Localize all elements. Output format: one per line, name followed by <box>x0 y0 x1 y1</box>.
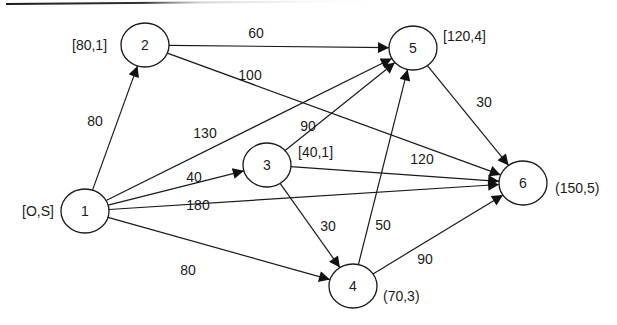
edge-2-to-6 <box>167 53 500 175</box>
node-label: 2 <box>141 37 149 53</box>
edge-weight-label: 120 <box>410 151 434 167</box>
node-annotation: (150,5) <box>555 180 599 196</box>
edge-weight-label: 90 <box>417 251 433 267</box>
edge-arrow <box>373 195 503 274</box>
edge-1-to-6 <box>109 185 499 210</box>
edge-weight-label: 30 <box>476 94 492 110</box>
edge-4-to-6 <box>373 195 503 274</box>
edge-weight-label: 60 <box>248 25 264 41</box>
edge-1-to-3 <box>108 171 244 205</box>
node-label: 4 <box>349 278 357 294</box>
edge-3-to-6 <box>291 167 499 182</box>
edge-arrow <box>109 185 499 210</box>
network-diagram: 123456 806010013090401201803050809030[O,… <box>0 0 617 325</box>
node-annotation: [O,S] <box>22 203 54 219</box>
node-4: 4 <box>329 264 377 308</box>
node-6: 6 <box>499 161 547 205</box>
edge-weight-label: 180 <box>186 197 210 213</box>
edge-weight-label: 90 <box>300 118 316 134</box>
edge-arrow <box>108 217 330 279</box>
edge-weight-label: 50 <box>375 217 391 233</box>
node-1: 1 <box>61 189 109 233</box>
node-annotation: (70,3) <box>383 288 420 304</box>
node-5: 5 <box>389 26 437 70</box>
node-label: 5 <box>409 40 417 56</box>
edge-1-to-4 <box>108 217 330 279</box>
edge-weight-label: 80 <box>87 113 103 129</box>
edge-arrow <box>285 63 395 151</box>
edge-arrow <box>358 69 407 264</box>
edge-arrow <box>167 53 500 175</box>
node-label: 3 <box>263 157 271 173</box>
node-label: 1 <box>81 203 89 219</box>
edge-weight-label: 100 <box>238 67 262 83</box>
edge-arrow <box>291 167 499 182</box>
top-rule <box>6 1 400 4</box>
edge-weight-label: 130 <box>193 125 217 141</box>
node-3: 3 <box>243 143 291 187</box>
edge-5-to-6 <box>427 66 508 166</box>
node-annotation: [80,1] <box>72 37 107 53</box>
edge-3-to-5 <box>285 63 395 151</box>
edges-layer <box>93 45 509 279</box>
edge-weight-label: 40 <box>186 169 202 185</box>
node-label: 6 <box>519 175 527 191</box>
edge-weight-label: 30 <box>320 218 336 234</box>
edge-weight-label: 80 <box>180 262 196 278</box>
edge-2-to-5 <box>169 45 389 47</box>
node-2: 2 <box>121 23 169 67</box>
node-annotation: [40,1] <box>298 144 333 160</box>
edge-arrow <box>169 45 389 47</box>
edge-arrow <box>108 171 244 205</box>
edge-4-to-5 <box>358 69 407 264</box>
edge-arrow <box>427 66 508 166</box>
node-annotation: [120,4] <box>443 28 486 44</box>
